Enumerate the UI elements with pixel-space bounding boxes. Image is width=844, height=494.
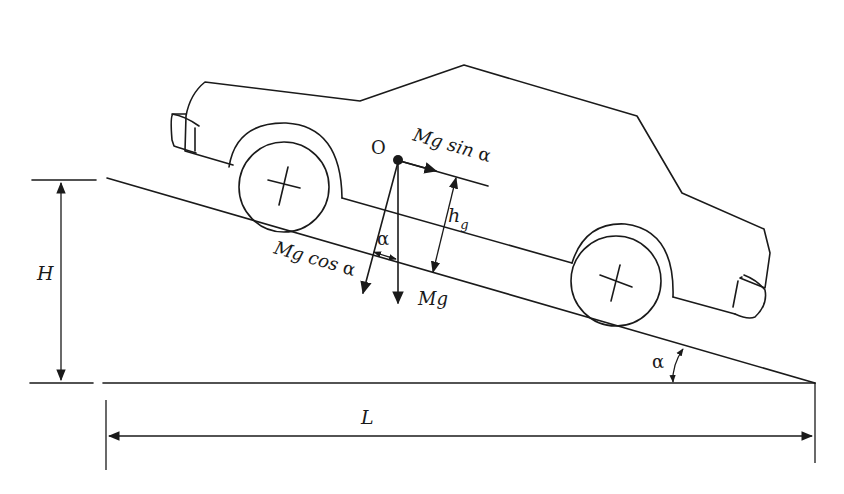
slope-angle: α — [652, 349, 683, 382]
height-dimension: H — [32, 180, 96, 380]
slope-angle-label: α — [652, 351, 664, 372]
incline-diagram: H L α — [0, 0, 844, 494]
force-parallel-label: Mg sin — [410, 123, 482, 162]
incline-surface — [107, 178, 815, 383]
center-of-gravity: O — [371, 137, 403, 165]
car-body — [171, 65, 770, 318]
force-parallel: Mg sin α — [400, 123, 494, 186]
front-wheel — [571, 236, 661, 326]
force-angle-label: α — [377, 228, 389, 249]
rear-wheel — [239, 142, 329, 232]
height-label: H — [36, 262, 54, 284]
svg-text:Mg sin α: Mg sin α — [410, 123, 494, 166]
cg-label: O — [371, 137, 386, 158]
cg-height-label: h — [448, 204, 460, 226]
force-weight: Mg — [398, 162, 448, 309]
svg-text:Mg cos α: Mg cos α — [271, 236, 358, 280]
length-dimension: L — [106, 383, 815, 470]
svg-text:hg: hg — [448, 204, 469, 232]
weight-label: Mg — [417, 288, 448, 309]
force-normal-label: Mg cos — [271, 236, 347, 276]
force-angle: α — [374, 228, 396, 259]
length-label: L — [360, 406, 374, 428]
